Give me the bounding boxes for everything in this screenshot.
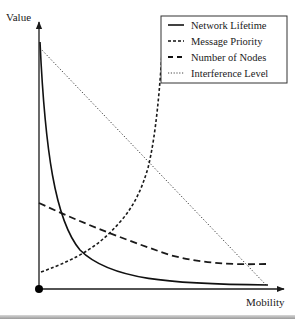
chart: Value Mobility Network Lifetime Message … [0, 0, 295, 319]
svg-text:Network Lifetime: Network Lifetime [191, 20, 267, 31]
y-axis-label: Value [6, 11, 31, 23]
svg-text:Message Priority: Message Priority [191, 36, 263, 47]
x-axis-label: Mobility [246, 296, 285, 308]
origin-dot [35, 285, 43, 293]
svg-text:Number of Nodes: Number of Nodes [191, 52, 266, 63]
legend: Network Lifetime Message Priority Number… [161, 16, 287, 83]
series-interference-level [40, 48, 267, 286]
bottom-border [0, 315, 295, 319]
series-number-of-nodes [39, 203, 266, 264]
series-message-priority [41, 22, 164, 272]
svg-text:Interference Level: Interference Level [191, 68, 268, 79]
